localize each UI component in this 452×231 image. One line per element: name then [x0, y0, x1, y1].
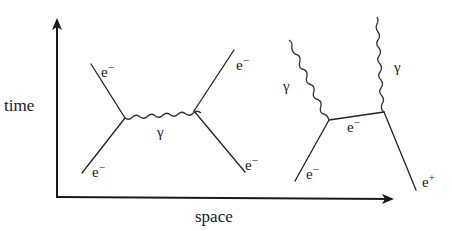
label-e-top-left: e−: [101, 61, 114, 80]
incoming-positron-line: [384, 112, 416, 190]
feynman-diagram-figure: time space e− e− e− e− γ γ γ e− e−: [0, 0, 452, 231]
label-gamma-left: γ: [282, 78, 290, 94]
right-outgoing-photon-wavy-line: [376, 17, 384, 112]
left-outgoing-photon-wavy-line: [289, 40, 329, 120]
axes: time space: [4, 20, 392, 226]
right-outgoing-electron-line: [194, 50, 234, 111]
right-feynman-diagram: γ γ e− e− e+: [282, 17, 435, 190]
label-e-propagator: e−: [347, 116, 360, 135]
right-incoming-electron-line: [194, 111, 245, 172]
label-e-bottom-right: e−: [245, 154, 258, 173]
label-gamma-right: γ: [393, 59, 401, 75]
space-axis: [56, 197, 392, 199]
label-e-top-right: e−: [236, 54, 249, 73]
label-e-bottom-left: e−: [92, 161, 105, 180]
label-gamma-exchange: γ: [156, 124, 164, 140]
label-e-incoming: e−: [306, 163, 319, 182]
exchange-photon-wavy-line: [125, 111, 201, 119]
label-positron-incoming: e+: [422, 171, 435, 190]
space-axis-label: space: [195, 207, 233, 226]
left-feynman-diagram: e− e− e− e− γ: [82, 50, 258, 180]
time-axis-label: time: [4, 96, 34, 115]
